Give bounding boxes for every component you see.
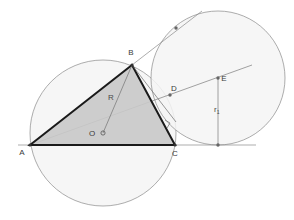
label-point-e: E (221, 74, 226, 83)
point-marker-f (174, 26, 177, 29)
point-marker-c (173, 143, 176, 146)
point-marker-e (216, 76, 219, 79)
point-marker-a (28, 143, 31, 146)
point-marker-d (168, 93, 171, 96)
label-circumradius-r: R (108, 93, 114, 102)
point-marker-b (130, 63, 133, 66)
geometry-figure: A B C D E O R r1 (0, 0, 294, 220)
label-center-o: O (89, 129, 95, 138)
label-radius-r1-subscript: 1 (217, 109, 220, 115)
point-marker-tangent (216, 143, 219, 146)
geometry-canvas: A B C D E O R r1 (0, 0, 294, 220)
label-point-a: A (19, 148, 25, 157)
label-point-d: D (171, 84, 177, 93)
label-point-b: B (128, 48, 133, 57)
label-point-c: C (172, 149, 178, 158)
